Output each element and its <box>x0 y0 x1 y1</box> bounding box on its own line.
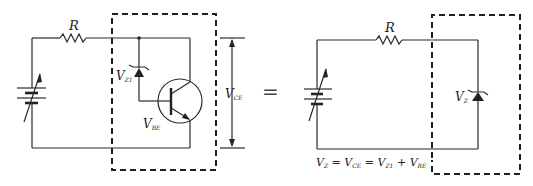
vce-label: VCE <box>225 87 243 101</box>
variable-battery-right <box>304 68 332 121</box>
vz-label: VZ <box>455 90 469 104</box>
resistor-left <box>60 34 86 42</box>
left-circuit: R VZ1 <box>17 14 245 170</box>
resistor-right <box>376 36 402 44</box>
zener-diode-right <box>468 90 488 101</box>
dashed-boundary-right <box>432 15 520 174</box>
vbe-label: VBE <box>143 117 161 131</box>
vz1-label: VZ1 <box>116 69 133 83</box>
resistor-label-left: R <box>68 18 79 33</box>
equals-sign: = <box>262 80 279 104</box>
right-circuit: R VZ VZ = VCE = VZ1 + VBE <box>304 15 520 174</box>
equation: VZ = VCE = VZ1 + VBE <box>316 156 427 169</box>
resistor-label-right: R <box>384 20 395 35</box>
circuit-diagram: R VZ1 <box>0 0 533 186</box>
